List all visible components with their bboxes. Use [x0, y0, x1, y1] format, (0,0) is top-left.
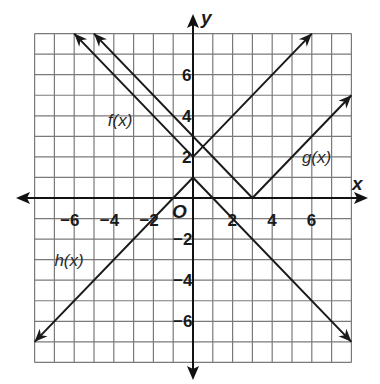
x-tick-label: −6: [60, 211, 79, 230]
x-tick-label: 2: [228, 211, 237, 230]
x-tick-label: 4: [267, 211, 277, 230]
function-label-fx: f(x): [108, 111, 133, 130]
y-tick-label: −2: [173, 230, 192, 249]
y-tick-label: −6: [173, 312, 192, 331]
x-tick-label: 6: [307, 211, 316, 230]
labels: y x O: [172, 7, 364, 222]
y-tick-label: −4: [173, 271, 193, 290]
y-axis-label: y: [200, 7, 213, 28]
y-tick-label: 4: [182, 107, 192, 126]
x-tick-label: −4: [100, 211, 120, 230]
function-label-gx: g(x): [302, 148, 331, 167]
y-tick-label: 6: [182, 66, 191, 85]
x-axis-label: x: [351, 173, 364, 194]
origin-label: O: [172, 201, 187, 222]
x-tick-label: −2: [139, 211, 158, 230]
y-tick-label: 2: [182, 148, 191, 167]
coordinate-plane: y x O −6−4−2246−6−4−2246 f(x)g(x)h(x): [0, 0, 380, 384]
function-label-hx: h(x): [54, 251, 83, 270]
